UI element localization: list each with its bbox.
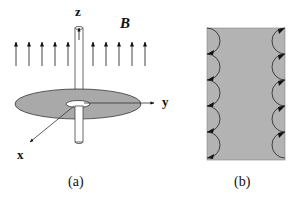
z-axis-label: z <box>75 5 81 18</box>
cylinder-lower <box>75 106 83 144</box>
x-axis-label: x <box>17 148 24 161</box>
diagram-canvas <box>0 0 296 201</box>
caption-a: (a) <box>68 175 84 189</box>
y-axis-label: y <box>162 95 169 108</box>
caption-b: (b) <box>234 175 250 189</box>
field-label: B <box>120 16 130 31</box>
